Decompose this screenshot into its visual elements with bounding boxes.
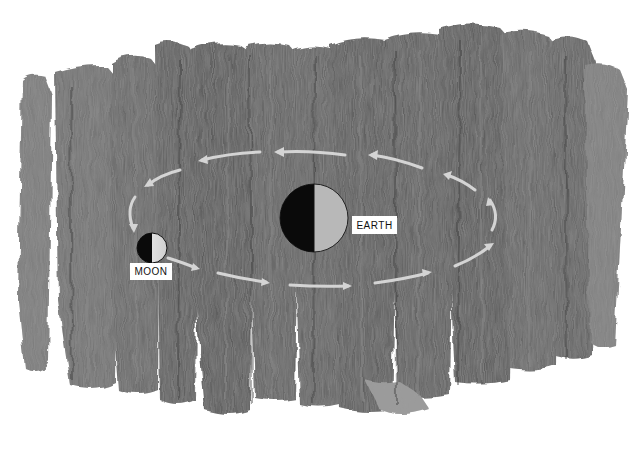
earth-label: EARTH	[352, 216, 397, 234]
orbit-diagram	[0, 0, 644, 449]
moon	[137, 233, 167, 263]
earth	[280, 184, 348, 252]
arrow-icon	[290, 285, 348, 286]
moon-label: MOON	[130, 263, 172, 280]
